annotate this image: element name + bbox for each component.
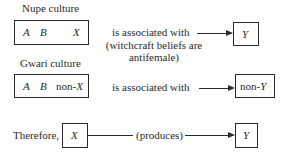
gwari-variable-non-x: non-X xyxy=(56,80,83,92)
nupe-variable-b: B xyxy=(40,26,47,38)
gwari-variable-a: A xyxy=(23,80,30,92)
nupe-result-y: Y xyxy=(242,28,248,40)
nupe-variable-x: X xyxy=(73,26,80,38)
nupe-note-line2: antifemale) xyxy=(104,51,204,63)
nupe-note-line1: (witchcraft beliefs are xyxy=(104,39,204,51)
gwari-result-box: non-Y xyxy=(235,74,275,98)
gwari-connector-line xyxy=(199,88,228,89)
nupe-arrowhead-icon xyxy=(226,30,233,36)
nupe-relation-label: is associated with xyxy=(112,26,190,38)
gwari-variable-b: B xyxy=(40,80,47,92)
nupe-variable-a: A xyxy=(23,26,30,38)
gwari-relation-label: is associated with xyxy=(112,81,190,93)
conclusion-effect-y: Y xyxy=(243,129,249,141)
conclusion-arrowhead-icon xyxy=(228,132,235,138)
conclusion-effect-box: Y xyxy=(235,123,258,148)
conclusion-line-left xyxy=(88,135,133,136)
gwari-non-prefix: non- xyxy=(56,80,76,92)
conclusion-cause-x: X xyxy=(71,129,78,141)
conclusion-lead-text: Therefore, xyxy=(13,129,59,141)
nupe-result-box: Y xyxy=(233,22,259,46)
gwari-result-y: Y xyxy=(260,80,266,92)
conclusion-line-right xyxy=(185,135,228,136)
conclusion-relation-label: (produces) xyxy=(136,129,183,141)
gwari-result-non-y: non-Y xyxy=(240,80,266,92)
nupe-connector-line xyxy=(197,33,227,34)
gwari-arrowhead-icon xyxy=(228,85,235,91)
gwari-culture-title: Gwari culture xyxy=(20,57,81,69)
gwari-culture-box: A B non-X xyxy=(14,74,89,98)
gwari-result-non-prefix: non- xyxy=(240,80,260,92)
nupe-culture-box: A B X xyxy=(14,20,89,45)
conclusion-cause-box: X xyxy=(62,123,88,148)
nupe-culture-title: Nupe culture xyxy=(22,2,79,14)
gwari-x: X xyxy=(76,80,83,92)
